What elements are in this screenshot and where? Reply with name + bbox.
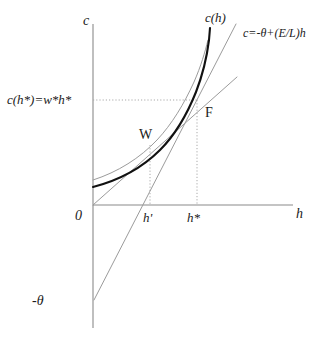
- neg-theta-intercept-label: -θ: [32, 294, 44, 308]
- wage-line-origin: [93, 77, 237, 205]
- plot-canvas: [0, 0, 331, 338]
- budget-line: [94, 24, 236, 300]
- point-w-label: W: [139, 128, 152, 142]
- cost-at-hstar-label: c(h*)=w*h*: [7, 93, 71, 106]
- origin-label: 0: [75, 209, 82, 223]
- point-f-label: F: [205, 106, 213, 120]
- h-star-tick-label: h*: [187, 211, 200, 224]
- cost-curve-ch: [93, 28, 210, 187]
- cost-curve-label: c(h): [205, 11, 226, 24]
- budget-line-label: c=-θ+(E/L)h: [243, 27, 306, 39]
- y-axis-label: c: [83, 14, 89, 28]
- economics-cost-curve-figure: c h 0 c(h) c=-θ+(E/L)h c(h*)=w*h* W F h'…: [0, 0, 331, 338]
- h-prime-tick-label: h': [143, 211, 152, 224]
- x-axis-label: h: [296, 207, 303, 221]
